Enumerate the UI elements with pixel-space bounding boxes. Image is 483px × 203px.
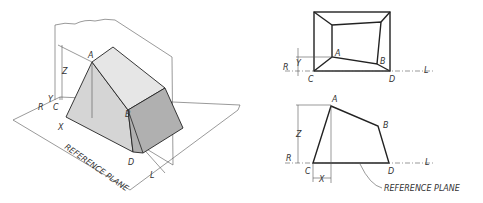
pictorial-plane-label: REFERENCE PLANE: [63, 142, 131, 193]
top-label-r: R: [283, 63, 289, 72]
top-label-c: C: [308, 75, 314, 84]
pictorial-label-l: L: [150, 171, 154, 180]
front-label-r: R: [286, 154, 292, 163]
front-label-l: L: [425, 158, 429, 167]
top-label-l: L: [424, 66, 428, 75]
front-label-b: B: [383, 121, 389, 130]
top-label-b: B: [380, 57, 386, 66]
pictorial-label-r: R: [38, 103, 44, 112]
top-label-d: D: [389, 75, 395, 84]
front-label-z: Z: [295, 130, 302, 139]
front-label-x: X: [318, 175, 325, 184]
pictorial-label-x: X: [57, 123, 64, 132]
front-label-c: C: [305, 167, 311, 176]
technical-drawing: Z A B C D R L X Y REFERENCE PLANE A B C …: [0, 0, 483, 203]
front-plane-label: REFERENCE PLANE: [384, 184, 461, 193]
top-label-a: A: [334, 49, 340, 58]
pictorial-label-z: Z: [61, 67, 68, 76]
front-view: A B C D R L Z X REFERENCE PLANE: [285, 95, 461, 193]
pictorial-label-d: D: [128, 158, 134, 167]
pictorial-view: Z A B C D R L X Y REFERENCE PLANE: [13, 19, 240, 193]
pictorial-label-a: A: [87, 51, 93, 60]
pictorial-label-c: C: [53, 103, 59, 112]
front-label-d: D: [388, 167, 394, 176]
front-label-a: A: [331, 95, 337, 104]
top-view: A B C D R L Y: [283, 12, 434, 84]
pictorial-label-b: B: [125, 110, 131, 119]
top-label-y: Y: [296, 59, 302, 68]
